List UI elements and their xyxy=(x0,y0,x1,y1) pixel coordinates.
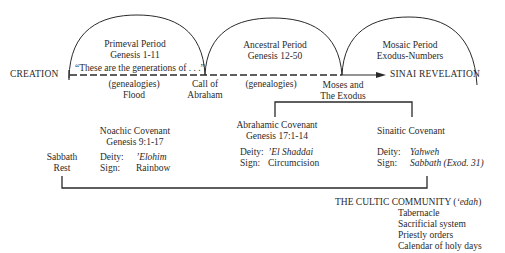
deity-value: Yahweh xyxy=(410,147,439,158)
sign-value: Circumcision xyxy=(268,158,319,169)
sabbath-rest-line1: Sabbath xyxy=(47,152,78,163)
genealogies-label-1: (genealogies) xyxy=(108,79,159,90)
covenant-ref: Genesis 17:1-14 xyxy=(246,131,308,142)
community-item: Sacrificial system xyxy=(398,219,466,230)
mosaic-period-title: Mosaic Period xyxy=(382,40,437,51)
ancestral-period-title: Ancestral Period xyxy=(243,40,307,51)
deity-value: ’El Shaddai xyxy=(268,147,313,158)
cultic-community-title-text: THE CULTIC COMMUNITY ( xyxy=(335,197,456,207)
generations-quote: “These are the generations of . . .” xyxy=(75,63,205,74)
sign-value: Sabbath (Exod. 31) xyxy=(410,158,484,169)
deity-value: ’Elohim xyxy=(136,152,167,163)
deity-row: Deity: Yahweh xyxy=(377,147,439,158)
deity-row: Deity: ’El Shaddai xyxy=(240,147,313,158)
creation-label: CREATION xyxy=(10,69,59,80)
bracket-abrahamic-sinaitic xyxy=(275,102,412,117)
mosaic-period-ref: Exodus-Numbers xyxy=(377,51,444,62)
deity-row: Deity: ’Elohim xyxy=(100,152,167,163)
community-item: Priestly orders xyxy=(398,230,453,241)
sign-label: Sign: xyxy=(240,158,268,169)
call-of-abraham-line1: Call of xyxy=(192,79,218,90)
covenant-name: Noachic Covenant xyxy=(100,126,170,137)
community-item: Tabernacle xyxy=(398,208,440,219)
sign-label: Sign: xyxy=(377,158,410,169)
covenant-name: Sinaitic Covenant xyxy=(377,126,445,137)
cultic-community-term: ‘edah xyxy=(456,197,478,207)
arrowhead-icon xyxy=(376,72,386,78)
sign-label: Sign: xyxy=(100,163,136,174)
bracket-sabbath xyxy=(62,176,427,188)
covenant-name: Abrahamic Covenant xyxy=(237,120,318,131)
deity-label: Deity: xyxy=(240,147,268,158)
flood-label: Flood xyxy=(123,90,145,101)
genealogies-label-2: (genealogies) xyxy=(245,79,296,90)
cultic-community-title-close: ) xyxy=(478,197,481,207)
sign-row: Sign: Rainbow xyxy=(100,163,170,174)
deity-label: Deity: xyxy=(377,147,410,158)
moses-exodus-line1: Moses and xyxy=(323,80,364,91)
sabbath-rest-line2: Rest xyxy=(54,163,71,174)
call-of-abraham-line2: Abraham xyxy=(187,90,222,101)
ancestral-period-ref: Genesis 12-50 xyxy=(248,51,303,62)
cultic-community-title: THE CULTIC COMMUNITY (‘edah) xyxy=(335,197,481,208)
moses-exodus-line2: The Exodus xyxy=(320,91,366,102)
sign-row: Sign: Circumcision xyxy=(240,158,319,169)
primeval-period-ref: Genesis 1-11 xyxy=(110,50,160,61)
deity-label: Deity: xyxy=(100,152,136,163)
sinai-revelation-label: SINAI REVELATION xyxy=(390,69,480,80)
sign-value: Rainbow xyxy=(136,163,170,174)
sign-row: Sign: Sabbath (Exod. 31) xyxy=(377,158,484,169)
covenant-ref: Genesis 9:1-17 xyxy=(106,137,163,148)
community-item: Calendar of holy days xyxy=(398,241,482,252)
primeval-period-title: Primeval Period xyxy=(104,39,165,50)
